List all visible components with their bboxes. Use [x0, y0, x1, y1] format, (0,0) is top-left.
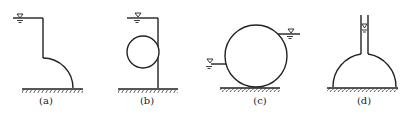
- figure-b: [118, 13, 178, 93]
- figure-a-label: (a): [39, 95, 53, 106]
- figure-b-label: (b): [140, 95, 154, 106]
- figure-a: [13, 14, 83, 93]
- figure-d: [327, 15, 398, 92]
- figure-c: [206, 25, 300, 92]
- figure-d-label: (d): [357, 95, 371, 106]
- figure-c-label: (c): [253, 95, 266, 106]
- water-level-icon: [362, 24, 367, 32]
- diagram-canvas: [0, 0, 417, 116]
